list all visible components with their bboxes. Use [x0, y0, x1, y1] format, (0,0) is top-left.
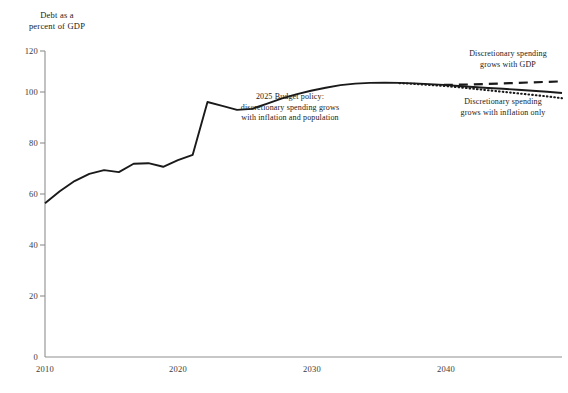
- y-tick-marks: [40, 51, 45, 296]
- debt-to-gdp-chart: Debt as a percent of GDP 120 100 80 60 4…: [0, 0, 568, 393]
- series-line-solid: [45, 83, 562, 204]
- series-line-dashed: [444, 81, 562, 85]
- data-series-group: [45, 81, 562, 203]
- plot-area: [0, 0, 568, 393]
- axes-group: [40, 51, 562, 357]
